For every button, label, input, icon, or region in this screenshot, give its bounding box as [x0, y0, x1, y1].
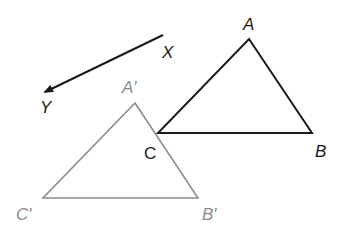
vector-label-y: Y	[40, 98, 53, 117]
vertex-label-b: B	[315, 142, 326, 161]
translation-vector-arrow	[45, 35, 163, 92]
vertex-label-c: C	[144, 144, 156, 163]
vertex-label-a: A	[242, 15, 254, 34]
image-triangle-a-prime-b-prime-c-prime	[43, 103, 198, 198]
vertex-label-c-prime: C′	[16, 205, 32, 224]
vertex-label-a-prime: A′	[121, 78, 137, 97]
original-triangle-abc	[158, 39, 312, 133]
vertex-label-b-prime: B′	[202, 205, 217, 224]
translation-diagram: X Y A B C A′ B′ C′	[0, 0, 344, 239]
vector-label-x: X	[161, 43, 174, 62]
